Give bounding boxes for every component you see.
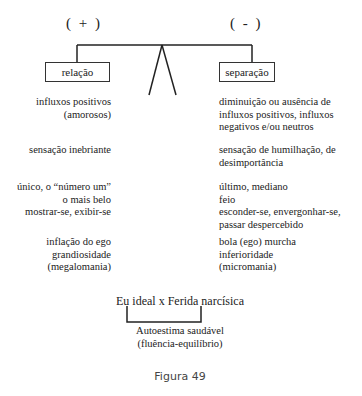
- negative-sign: ( - ): [230, 15, 263, 32]
- right-item-2-line-2: desimportância: [219, 157, 361, 170]
- left-item-3: único, o “número um” o mais belo mostrar…: [0, 181, 111, 219]
- right-item-3: último, mediano feio esconder-se, enverg…: [219, 181, 361, 231]
- bottom-result-line-2: (fluência-equilíbrio): [80, 337, 280, 350]
- figure-caption: Figura 49: [80, 370, 280, 383]
- left-item-2: sensação inebriante: [0, 144, 111, 157]
- left-item-4-line-2: grandiosidade: [0, 249, 111, 262]
- left-item-4-line-1: inflação do ego: [0, 236, 111, 249]
- left-item-1-line-1: influxos positivos: [0, 96, 111, 109]
- fulcrum-right-leg: [162, 45, 176, 95]
- left-item-3-line-1: único, o “número um”: [0, 181, 111, 194]
- right-item-1-line-2: influxos positivos, influxos: [219, 109, 361, 122]
- right-item-4-line-3: (micromania): [219, 261, 361, 274]
- right-item-1-line-3: negativos e/ou neutros: [219, 121, 361, 134]
- left-item-4-line-3: (megalomania): [0, 261, 111, 274]
- right-item-2: sensação de humilhação, de desimportânci…: [219, 144, 361, 169]
- bottom-title: Eu ideal x Ferida narcísica: [80, 294, 280, 309]
- right-item-4-line-2: inferioridade: [219, 249, 361, 262]
- right-item-4-line-1: bola (ego) murcha: [219, 236, 361, 249]
- right-item-2-line-1: sensação de humilhação, de: [219, 144, 361, 157]
- left-item-2-line-1: sensação inebriante: [0, 144, 111, 157]
- right-item-3-line-1: último, mediano: [219, 181, 361, 194]
- fulcrum-left-leg: [149, 45, 162, 95]
- right-item-1: diminuição ou ausência de influxos posit…: [219, 96, 361, 134]
- left-item-4: inflação do ego grandiosidade (megaloman…: [0, 236, 111, 274]
- left-item-3-line-3: mostrar-se, exibir-se: [0, 206, 111, 219]
- positive-sign: ( + ): [66, 15, 102, 32]
- bottom-result: Autoestima saudável (fluência-equilíbrio…: [80, 324, 280, 350]
- separation-box: separação: [219, 62, 275, 82]
- right-item-3-line-2: feio: [219, 194, 361, 207]
- left-item-3-line-2: o mais belo: [0, 194, 111, 207]
- left-item-1-line-2: (amorosos): [0, 109, 111, 122]
- relation-box: relação: [45, 62, 110, 82]
- left-item-1: influxos positivos (amorosos): [0, 96, 111, 121]
- bottom-result-line-1: Autoestima saudável: [80, 324, 280, 337]
- right-item-3-line-3: esconder-se, envergonhar-se,: [219, 206, 361, 219]
- right-item-1-line-1: diminuição ou ausência de: [219, 96, 361, 109]
- right-item-4: bola (ego) murcha inferioridade (microma…: [219, 236, 361, 274]
- right-item-3-line-4: passar despercebido: [219, 219, 361, 232]
